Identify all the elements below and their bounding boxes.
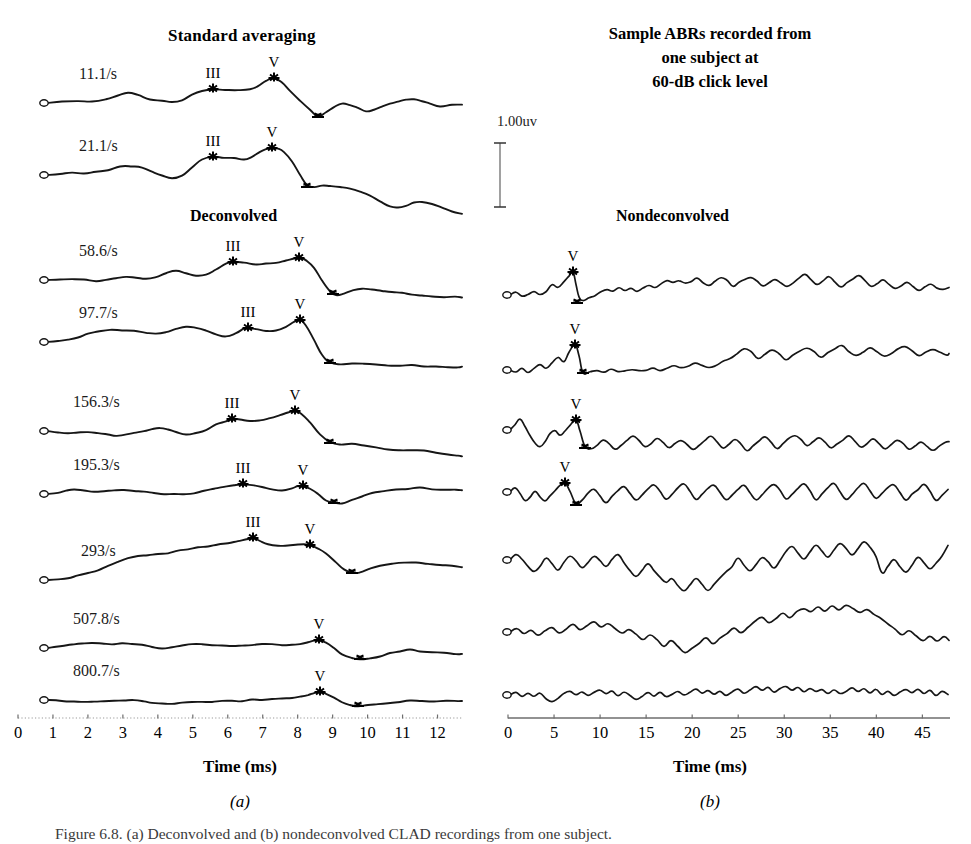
trace-line xyxy=(47,257,462,298)
axis-tick-label: 5 xyxy=(550,723,558,743)
trace-start-marker xyxy=(40,100,48,106)
star-icon xyxy=(290,406,301,415)
nondeconvolved-heading: Nondeconvolved xyxy=(616,207,729,225)
star-icon xyxy=(248,533,259,542)
axis-tick-label: 15 xyxy=(638,723,655,743)
rate-label: 21.1/s xyxy=(79,137,118,155)
axis-tick-label: 5 xyxy=(189,723,197,743)
peak-marker-v: V xyxy=(571,396,582,424)
star-icon xyxy=(560,478,571,487)
trace-start-marker xyxy=(40,577,48,583)
peak-marker-iii: III xyxy=(246,514,261,542)
trough-icon xyxy=(579,445,591,449)
trough-icon xyxy=(352,703,364,707)
rate-label: 293/s xyxy=(81,542,116,560)
star-icon xyxy=(227,414,238,423)
peak-marker-v: V xyxy=(560,459,571,487)
star-icon xyxy=(243,323,254,332)
axis-tick-label: 12 xyxy=(429,723,446,743)
rate-label: 58.6/s xyxy=(79,242,118,260)
trace-start-marker xyxy=(40,277,48,283)
abr-figure: Standard averaging Sample ABRs recorded … xyxy=(0,0,971,844)
trace-line xyxy=(510,686,948,701)
trough-marker xyxy=(352,703,364,707)
peak-marker-iii: III xyxy=(206,65,221,93)
panel-b-letter: (b) xyxy=(700,792,720,812)
figure-caption: Figure 6.8. (a) Deconvolved and (b) nond… xyxy=(55,823,935,844)
trace-line xyxy=(510,483,948,505)
scale-bar xyxy=(494,143,506,207)
peak-label: III xyxy=(226,238,241,254)
axis-tick-label: 6 xyxy=(224,723,232,743)
panel-b-axis xyxy=(508,715,950,719)
trace-start-marker xyxy=(503,692,511,698)
waveform-trace: IIIV xyxy=(40,54,462,117)
rate-label: 156.3/s xyxy=(73,393,120,411)
axis-tick-label: 40 xyxy=(868,723,885,743)
star-icon xyxy=(294,253,305,262)
waveform-trace xyxy=(503,542,948,591)
peak-label: V xyxy=(560,459,571,475)
right-title-line-3: 60-dB click level xyxy=(560,70,860,94)
trough-icon xyxy=(301,184,313,188)
peak-marker-v: V xyxy=(570,321,581,349)
panel-a-axis xyxy=(18,715,462,719)
peak-marker-iii: III xyxy=(236,460,251,488)
star-icon xyxy=(305,540,316,549)
star-icon xyxy=(570,340,581,349)
deconvolved-heading: Deconvolved xyxy=(190,207,277,225)
peak-marker-v: V xyxy=(298,462,309,490)
peak-marker-iii: III xyxy=(206,133,221,161)
trace-line xyxy=(510,542,948,591)
star-icon xyxy=(315,687,326,696)
trace-line xyxy=(47,692,462,707)
trace-line xyxy=(47,640,462,660)
peak-label: V xyxy=(305,521,316,537)
peak-label: III xyxy=(206,133,221,149)
peak-marker-v: V xyxy=(294,234,305,262)
trace-line xyxy=(510,605,949,652)
rate-label: 800.7/s xyxy=(73,662,120,680)
peak-label: V xyxy=(298,462,309,478)
axis-tick-label: 2 xyxy=(84,723,92,743)
peak-label: III xyxy=(246,514,261,530)
panel-b-waveforms: VVVV xyxy=(503,248,949,702)
trough-marker xyxy=(354,656,366,660)
peak-marker-v: V xyxy=(315,668,326,696)
trace-start-marker xyxy=(40,697,48,703)
peak-marker-iii: III xyxy=(241,304,256,332)
axis-tick-label: 10 xyxy=(359,723,376,743)
peak-marker-iii: III xyxy=(226,238,241,266)
peak-marker-v: V xyxy=(267,124,278,152)
trough-icon xyxy=(354,656,366,660)
peak-marker-v: V xyxy=(568,248,579,276)
peak-label: III xyxy=(236,460,251,476)
trace-start-marker xyxy=(503,367,511,373)
trace-line xyxy=(510,419,949,451)
rate-label: 11.1/s xyxy=(79,65,117,83)
peak-marker-v: V xyxy=(305,521,316,549)
trough-marker xyxy=(579,445,591,449)
axis-tick-label: 25 xyxy=(730,723,747,743)
trace-line xyxy=(510,272,949,301)
trace-line xyxy=(47,148,462,214)
waveform-trace xyxy=(503,605,949,652)
trace-start-marker xyxy=(503,427,511,433)
panel-a-axis-title: Time (ms) xyxy=(203,757,277,777)
axis-tick-label: 0 xyxy=(14,723,22,743)
axis-tick-label: 30 xyxy=(776,723,793,743)
axis-tick-label: 11 xyxy=(395,723,411,743)
axis-tick-label: 35 xyxy=(822,723,839,743)
star-icon xyxy=(298,481,309,490)
scale-bar-label: 1.00uv xyxy=(497,113,537,130)
left-panel-title: Standard averaging xyxy=(168,26,316,46)
axis-tick-label: 9 xyxy=(329,723,337,743)
peak-label: III xyxy=(225,395,240,411)
axis-tick-label: 3 xyxy=(119,723,127,743)
trace-start-marker xyxy=(503,629,511,635)
trace-line xyxy=(47,410,462,456)
trough-icon xyxy=(577,370,589,374)
waveform-canvas: IIIVIIIVIIIVIIIVIIIVIIIVIIIVVV VVVV xyxy=(0,0,971,844)
trace-start-marker xyxy=(503,292,511,298)
peak-label: V xyxy=(571,396,582,412)
